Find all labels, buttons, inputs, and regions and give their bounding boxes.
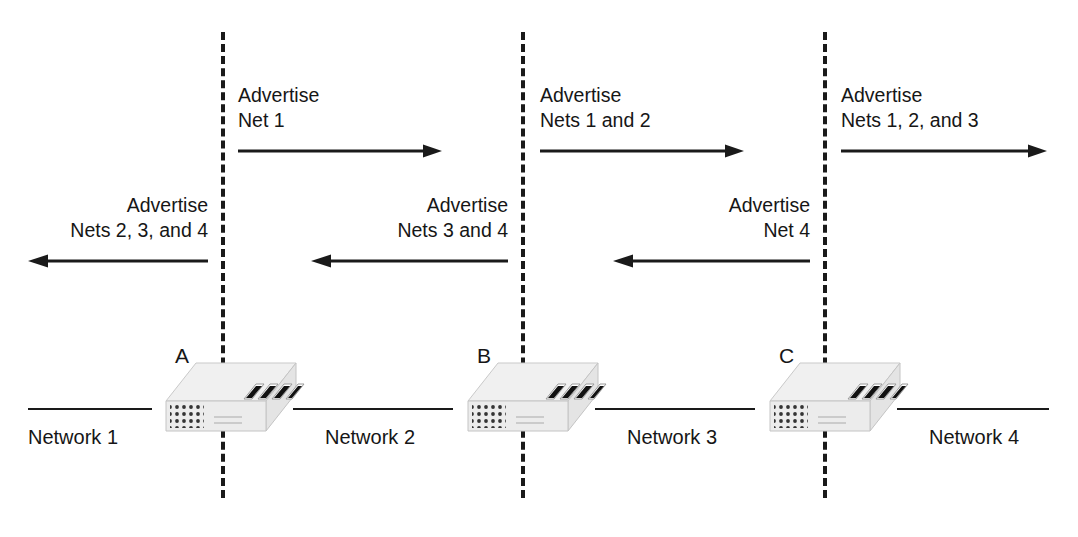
advertisement-right-2: Advertise Nets 1 and 2 [540, 83, 651, 133]
network-wire-1 [28, 408, 152, 410]
advertisement-right-3-line2: Nets 1, 2, and 3 [841, 108, 979, 133]
network-label-2: Network 2 [325, 425, 415, 449]
arrow-left-icon [28, 254, 208, 268]
arrow-left-icon [613, 254, 810, 268]
network-wire-2 [293, 408, 453, 410]
network-wire-3 [595, 408, 755, 410]
advertisement-left-1: Advertise Nets 2, 3, and 4 [0, 193, 208, 243]
router-device-b[interactable] [448, 355, 618, 455]
advertisement-left-2-line2: Nets 3 and 4 [300, 218, 508, 243]
advertisement-right-2-line2: Nets 1 and 2 [540, 108, 651, 133]
network-label-4: Network 4 [929, 425, 1019, 449]
advertisement-left-3-line1: Advertise [602, 193, 810, 218]
arrow-right-icon [540, 144, 744, 158]
advertisement-left-3-line2: Net 4 [602, 218, 810, 243]
router-device-c[interactable] [750, 355, 920, 455]
arrow-right-icon [841, 144, 1047, 158]
router-icon [146, 355, 316, 455]
network-advertisement-diagram: Advertise Net 1 Advertise Nets 1 and 2 A… [0, 0, 1078, 537]
router-icon [750, 355, 920, 455]
advertisement-left-3: Advertise Net 4 [602, 193, 810, 243]
arrow-right-2 [540, 144, 744, 158]
arrow-left-3 [613, 254, 810, 268]
arrow-left-2 [311, 254, 508, 268]
advertisement-left-1-line1: Advertise [0, 193, 208, 218]
arrow-right-3 [841, 144, 1047, 158]
router-device-a[interactable] [146, 355, 316, 455]
network-label-3: Network 3 [627, 425, 717, 449]
advertisement-right-3: Advertise Nets 1, 2, and 3 [841, 83, 979, 133]
arrow-right-1 [238, 144, 442, 158]
advertisement-right-1-line1: Advertise [238, 83, 319, 108]
advertisement-right-1-line2: Net 1 [238, 108, 319, 133]
advertisement-right-3-line1: Advertise [841, 83, 979, 108]
arrow-left-icon [311, 254, 508, 268]
arrow-right-icon [238, 144, 442, 158]
advertisement-left-2: Advertise Nets 3 and 4 [300, 193, 508, 243]
advertisement-left-1-line2: Nets 2, 3, and 4 [0, 218, 208, 243]
network-label-1: Network 1 [28, 425, 118, 449]
advertisement-right-1: Advertise Net 1 [238, 83, 319, 133]
router-icon [448, 355, 618, 455]
arrow-left-1 [28, 254, 208, 268]
advertisement-right-2-line1: Advertise [540, 83, 651, 108]
advertisement-left-2-line1: Advertise [300, 193, 508, 218]
